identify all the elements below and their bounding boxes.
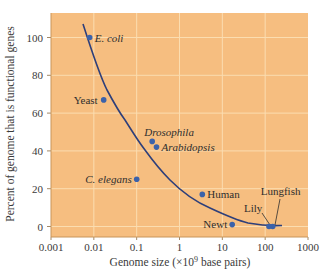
x-tick-label: 0.1 <box>130 241 144 253</box>
data-point-c-elegans <box>134 177 140 183</box>
data-point-newt <box>229 222 235 228</box>
y-tick-label: 60 <box>32 107 44 119</box>
point-label-drosophila: Drosophila <box>143 126 194 138</box>
x-axis-ticks: 0.0010.010.11101001000 <box>39 241 320 253</box>
x-axis-title: Genome size (×109 base pairs) <box>110 255 251 269</box>
y-tick-label: 80 <box>32 69 44 81</box>
y-axis-title: Percent of genome that is functional gen… <box>4 26 17 222</box>
data-point-e-coli <box>87 35 93 41</box>
point-label-lily: Lily <box>244 202 263 214</box>
x-tick-label: 1000 <box>297 241 320 253</box>
point-label-c-elegans: C. elegans <box>85 173 131 185</box>
data-point-lungfish <box>270 224 276 230</box>
x-tick-label: 0.01 <box>84 241 103 253</box>
data-point-arabidopsis <box>154 144 160 150</box>
x-tick-label: 100 <box>257 241 274 253</box>
x-tick-label: 1 <box>177 241 183 253</box>
y-tick-label: 20 <box>32 183 44 195</box>
x-tick-label: 10 <box>217 241 229 253</box>
chart: 020406080100 0.0010.010.11101001000 E. c… <box>0 0 334 279</box>
point-label-human: Human <box>207 188 240 200</box>
y-axis-ticks: 020406080100 <box>27 32 44 233</box>
point-label-lungfish: Lungfish <box>261 185 301 197</box>
point-label-newt: Newt <box>203 218 227 230</box>
data-point-drosophila <box>149 139 155 145</box>
x-tick-label: 0.001 <box>39 241 64 253</box>
y-tick-label: 0 <box>38 221 44 233</box>
data-point-yeast <box>101 97 107 103</box>
point-label-arabidopsis: Arabidopsis <box>161 141 215 153</box>
point-label-yeast: Yeast <box>74 94 98 106</box>
y-tick-label: 40 <box>32 145 44 157</box>
data-point-human <box>200 192 206 198</box>
y-tick-label: 100 <box>27 32 44 44</box>
point-label-e-coli: E. coli <box>94 32 124 44</box>
